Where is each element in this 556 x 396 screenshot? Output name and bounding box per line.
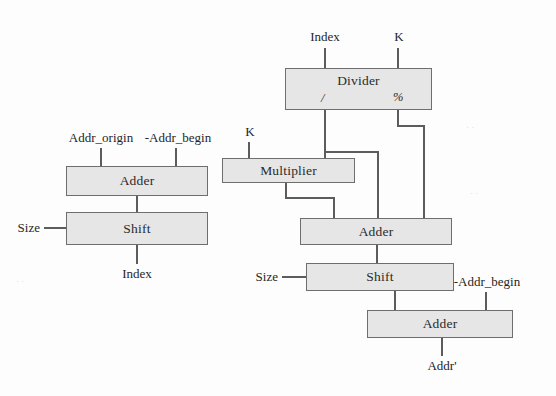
node-adder-mid[interactable]: Adder	[300, 218, 452, 245]
node-label: Multiplier	[223, 163, 354, 179]
input-label-index-right: Index	[310, 29, 340, 45]
node-label: Adder	[301, 224, 451, 240]
node-shift-left[interactable]: Shift	[66, 212, 208, 245]
diagram-canvas: ' ' · · · · · ·	[0, 0, 556, 396]
node-adder-bottom[interactable]: Adder	[367, 310, 513, 338]
port-quotient: /	[321, 91, 325, 106]
node-label: Shift	[67, 221, 207, 237]
node-divider[interactable]: Divider / %	[285, 68, 432, 110]
input-label-addr-origin: Addr_origin	[69, 130, 133, 146]
input-label-size-left: Size	[18, 220, 40, 236]
output-label-index: Index	[122, 266, 152, 282]
output-label-addr-prime: Addr'	[427, 358, 456, 374]
input-label-k-multiplier: K	[245, 124, 254, 140]
wire-multiplier-to-adder-mid	[286, 183, 334, 218]
input-label-neg-addr-begin-right: -Addr_begin	[454, 274, 520, 290]
node-multiplier[interactable]: Multiplier	[222, 158, 355, 183]
wire-remainder-to-adder-mid	[398, 110, 424, 218]
node-label: Adder	[368, 316, 512, 332]
input-label-size-right: Size	[256, 269, 278, 285]
node-shift-right[interactable]: Shift	[306, 263, 454, 291]
node-label: Shift	[307, 269, 453, 285]
port-remainder: %	[393, 90, 404, 105]
node-adder-left[interactable]: Adder	[66, 166, 208, 196]
node-label: Adder	[67, 173, 207, 189]
node-label: Divider	[286, 73, 431, 89]
input-label-neg-addr-begin: -Addr_begin	[145, 130, 211, 146]
input-label-k-divider: K	[394, 29, 403, 45]
